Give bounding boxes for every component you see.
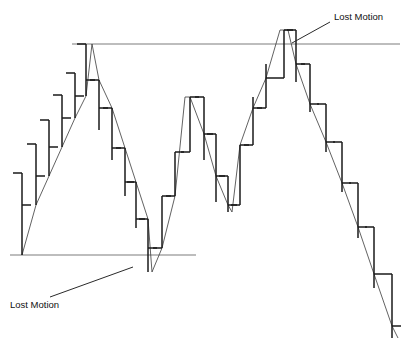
chart-container: Lost MotionLost Motion [0,0,409,345]
ohlc-bar-chart: Lost MotionLost Motion [0,0,409,345]
annotation-label: Lost Motion [10,299,59,310]
annotation-label: Lost Motion [334,11,383,22]
